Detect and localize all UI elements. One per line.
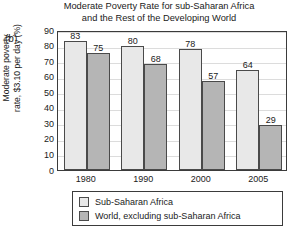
bar[interactable]: 78 [179,49,202,170]
y-axis-tick-labels: 0102030405060708090 [28,31,54,171]
legend-item[interactable]: Sub-Saharan Africa [79,195,282,209]
y-axis-tick-label: 40 [28,104,54,113]
legend-item[interactable]: World, excluding sub-Saharan Africa [79,209,282,223]
y-axis-tick-label: 90 [28,27,54,36]
plot-area: 8375806878576429 [57,31,287,171]
legend-label: Sub-Saharan Africa [95,197,173,207]
bar-value-label: 64 [243,60,253,71]
x-axis-tick-label: 2000 [172,174,230,184]
y-axis-title-line-2: rate, $3.10 per day (%) [12,3,23,133]
y-axis-tick-label: 30 [28,120,54,129]
y-axis-tick-label: 0 [28,167,54,176]
y-axis-tick-label: 50 [28,89,54,98]
bar-value-label: 80 [128,36,138,47]
x-axis-tick-labels: 1980199020002005 [57,174,287,186]
legend-label: World, excluding sub-Saharan Africa [95,211,240,221]
x-axis-tick-label: 2005 [230,174,288,184]
bar[interactable]: 75 [87,53,110,170]
y-axis-title: Moderate poverty rate, $3.10 per day (%) [1,3,25,133]
legend-swatch [79,211,89,221]
y-axis-tick-label: 60 [28,73,54,82]
chart-title-line-2: and the Rest of the Developing World [30,13,288,25]
bar[interactable]: 29 [259,125,282,170]
bar-value-label: 68 [151,54,161,65]
bars-layer: 8375806878576429 [58,32,286,170]
bar-value-label: 83 [70,31,80,42]
x-axis-tick-label: 1990 [115,174,173,184]
bar[interactable]: 83 [64,41,87,170]
y-axis-tick-label: 10 [28,151,54,160]
bar-group: 7857 [179,32,225,170]
bar[interactable]: 57 [202,81,225,170]
bar[interactable]: 80 [121,46,144,170]
bar[interactable]: 68 [144,64,167,170]
x-axis-tick-label: 1980 [57,174,115,184]
chart-title-line-1: Moderate Poverty Rate for sub-Saharan Af… [30,1,288,13]
bar-value-label: 78 [185,39,195,50]
y-axis-title-line-1: Moderate poverty [1,3,12,133]
bar-value-label: 75 [93,43,103,54]
bar-group: 8375 [64,32,110,170]
bar-value-label: 57 [208,71,218,82]
chart-title: Moderate Poverty Rate for sub-Saharan Af… [30,1,288,24]
bar-value-label: 29 [266,115,276,126]
bar-group: 8068 [121,32,167,170]
y-axis-tick-label: 70 [28,58,54,67]
legend-swatch [79,197,89,207]
bar-group: 6429 [236,32,282,170]
y-axis-tick-label: 80 [28,42,54,51]
legend: Sub-Saharan AfricaWorld, excluding sub-S… [72,191,283,226]
bar[interactable]: 64 [236,70,259,170]
y-axis-tick-label: 20 [28,135,54,144]
